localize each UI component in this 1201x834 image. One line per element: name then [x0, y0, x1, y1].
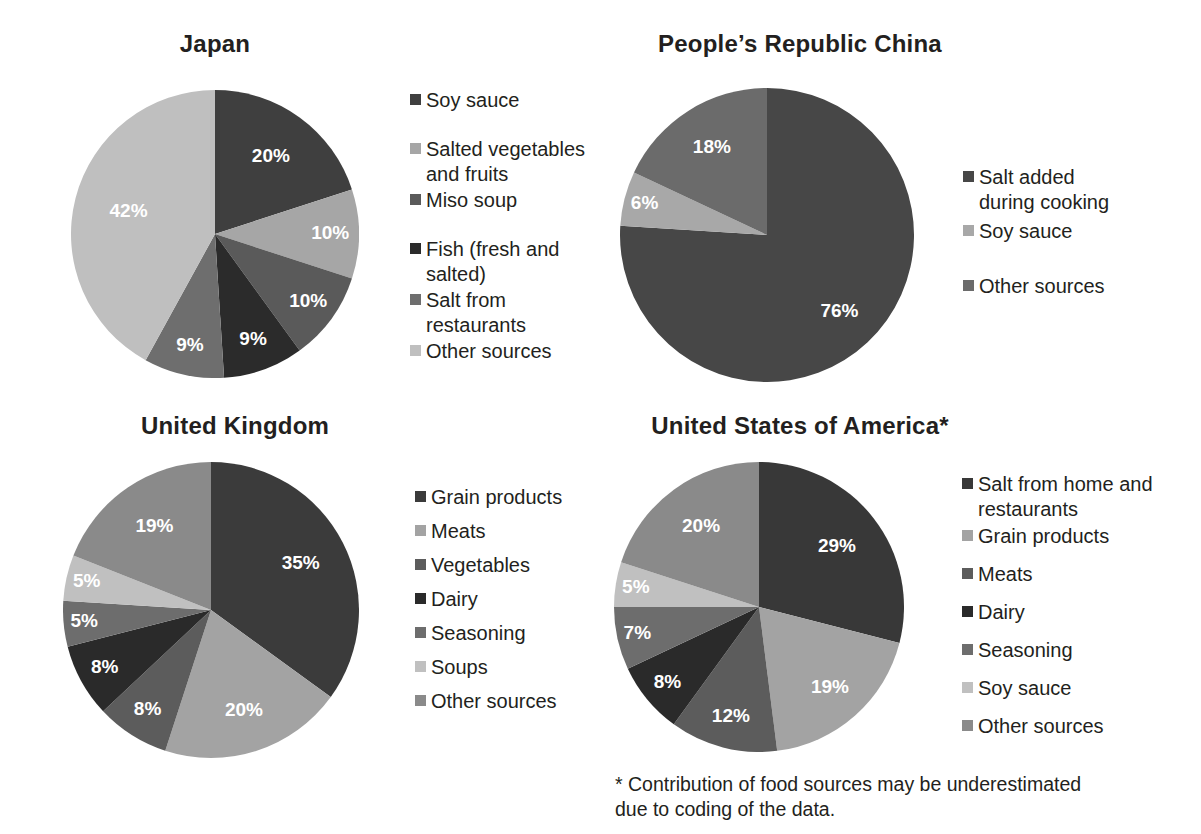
legend-united-kingdom: Grain products Meats Vegetables Dairy Se… — [415, 485, 605, 716]
legend-swatch-icon — [962, 644, 973, 655]
pie-chart-united-kingdom: 35%20%8%8%5%5%19% — [63, 462, 359, 758]
pie-slice-label: 7% — [624, 622, 652, 643]
pie-slice-label: 19% — [135, 515, 173, 536]
pie-slice-label: 12% — [712, 705, 750, 726]
legend-swatch-icon — [962, 682, 973, 693]
legend-item-label: Grain products — [978, 524, 1109, 549]
pie-slice-label: 20% — [225, 699, 263, 720]
legend-swatch-icon — [410, 143, 421, 154]
legend-swatch-icon — [410, 345, 421, 356]
legend-item[interactable]: Salt added during cooking — [963, 165, 1193, 215]
pie-slice-label: 8% — [91, 656, 119, 677]
pie-slice-label: 35% — [282, 552, 320, 573]
legend-swatch-icon — [963, 225, 974, 236]
legend-item[interactable]: Other sources — [410, 339, 605, 364]
legend-japan: Soy sauce Salted vegetables and fruits M… — [410, 88, 605, 366]
pie-slice-label: 42% — [110, 200, 148, 221]
pie-slice-label: 8% — [654, 671, 682, 692]
pie-slice-label: 6% — [631, 192, 659, 213]
legend-item-label: Seasoning — [978, 638, 1073, 663]
pie-svg-japan: 20%10%10%9%9%42% — [71, 90, 359, 378]
legend-item[interactable]: Miso soup — [410, 188, 605, 213]
legend-swatch-icon — [415, 559, 426, 570]
legend-item-label: Other sources — [979, 274, 1105, 299]
legend-swatch-icon — [410, 294, 421, 305]
legend-item-label: Meats — [978, 562, 1032, 587]
legend-item[interactable]: Dairy — [962, 600, 1197, 625]
footnote-text: * Contribution of food sources may be un… — [615, 772, 1175, 822]
legend-item-label: Salted vegetables and fruits — [426, 137, 585, 187]
legend-item-label: Soy sauce — [978, 676, 1071, 701]
page-title-united-states: United States of America* — [600, 412, 1000, 440]
pie-svg-uk: 35%20%8%8%5%5%19% — [63, 462, 359, 758]
pie-slice-label: 29% — [818, 535, 856, 556]
legend-item-label: Fish (fresh and salted) — [426, 237, 559, 287]
legend-item[interactable]: Soy sauce — [410, 88, 605, 113]
legend-swatch-icon — [410, 94, 421, 105]
page-title-japan: Japan — [115, 30, 315, 58]
legend-item[interactable]: Dairy — [415, 587, 605, 612]
legend-item-label: Meats — [431, 519, 485, 544]
pie-slice-label: 20% — [682, 515, 720, 536]
pie-slice-label: 10% — [311, 222, 349, 243]
pie-chart-united-states: 29%19%12%8%7%5%20% — [614, 462, 904, 752]
legend-swatch-icon — [962, 606, 973, 617]
legend-swatch-icon — [415, 661, 426, 672]
legend-china: Salt added during cooking Soy sauce Othe… — [963, 165, 1193, 301]
legend-item[interactable]: Salt from restaurants — [410, 288, 605, 338]
pie-slice-label: 76% — [820, 300, 858, 321]
pie-slice-label: 9% — [176, 334, 204, 355]
legend-item-label: Soy sauce — [979, 219, 1072, 244]
legend-item-label: Salt added during cooking — [979, 165, 1109, 215]
pie-svg-usa: 29%19%12%8%7%5%20% — [614, 462, 904, 752]
legend-swatch-icon — [410, 243, 421, 254]
legend-item[interactable]: Meats — [962, 562, 1197, 587]
legend-item-label: Salt from restaurants — [426, 288, 526, 338]
legend-item[interactable]: Grain products — [962, 524, 1197, 549]
legend-item[interactable]: Vegetables — [415, 553, 605, 578]
legend-item[interactable]: Soy sauce — [962, 676, 1197, 701]
legend-swatch-icon — [962, 568, 973, 579]
legend-swatch-icon — [962, 720, 973, 731]
legend-swatch-icon — [963, 171, 974, 182]
pie-slice-label: 9% — [239, 328, 267, 349]
legend-item-label: Soy sauce — [426, 88, 519, 113]
legend-item[interactable]: Other sources — [963, 274, 1193, 299]
legend-item[interactable]: Grain products — [415, 485, 605, 510]
pie-chart-japan: 20%10%10%9%9%42% — [71, 90, 359, 378]
pie-slice-label: 5% — [73, 570, 101, 591]
legend-item[interactable]: Salt from home and restaurants — [962, 472, 1197, 522]
legend-swatch-icon — [415, 525, 426, 536]
pie-slice-label: 10% — [289, 290, 327, 311]
pie-svg-china: 76%6%18% — [620, 88, 914, 382]
pie-slice-label: 8% — [134, 698, 162, 719]
legend-item[interactable]: Fish (fresh and salted) — [410, 237, 605, 287]
legend-item-label: Vegetables — [431, 553, 530, 578]
legend-item[interactable]: Soups — [415, 655, 605, 680]
legend-item[interactable]: Seasoning — [415, 621, 605, 646]
legend-item[interactable]: Other sources — [415, 689, 605, 714]
page-title-china: People’s Republic China — [610, 30, 990, 58]
legend-item-label: Other sources — [978, 714, 1104, 739]
legend-item[interactable]: Soy sauce — [963, 219, 1193, 244]
legend-item-label: Soups — [431, 655, 488, 680]
legend-item-label: Other sources — [431, 689, 557, 714]
legend-swatch-icon — [962, 530, 973, 541]
legend-item-label: Dairy — [431, 587, 478, 612]
legend-item[interactable]: Meats — [415, 519, 605, 544]
legend-swatch-icon — [415, 627, 426, 638]
page-title-united-kingdom: United Kingdom — [85, 412, 385, 440]
legend-item-label: Dairy — [978, 600, 1025, 625]
legend-item[interactable]: Other sources — [962, 714, 1197, 739]
legend-item[interactable]: Seasoning — [962, 638, 1197, 663]
pie-chart-china: 76%6%18% — [620, 88, 914, 382]
legend-swatch-icon — [415, 491, 426, 502]
legend-swatch-icon — [415, 695, 426, 706]
legend-united-states: Salt from home and restaurants Grain pro… — [962, 472, 1197, 741]
legend-item-label: Other sources — [426, 339, 552, 364]
pie-slice-label: 18% — [693, 136, 731, 157]
legend-item[interactable]: Salted vegetables and fruits — [410, 137, 605, 187]
pie-slice-label: 5% — [622, 576, 650, 597]
legend-item-label: Grain products — [431, 485, 562, 510]
legend-item-label: Salt from home and restaurants — [978, 472, 1153, 522]
